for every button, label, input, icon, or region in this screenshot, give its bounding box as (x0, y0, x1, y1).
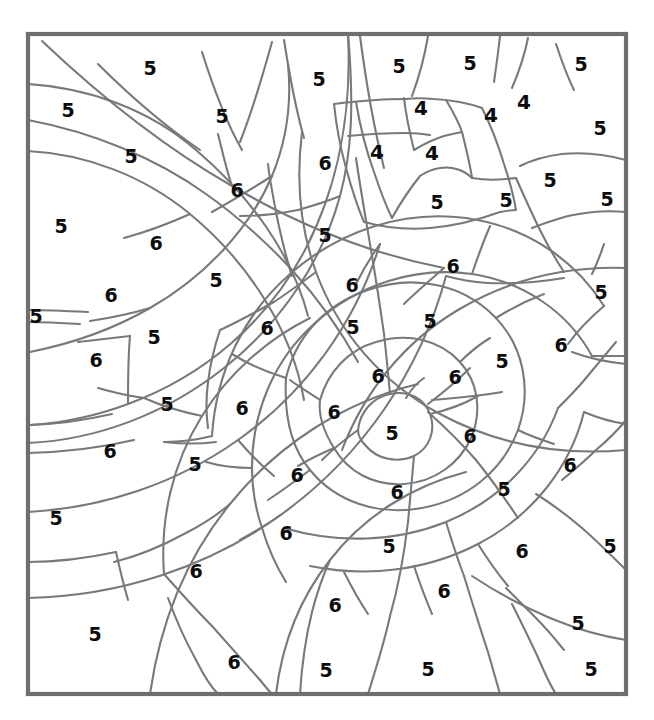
region-number: 5 (593, 119, 606, 138)
region-number: 5 (594, 283, 607, 302)
region-number: 5 (88, 625, 101, 644)
region-number: 5 (571, 614, 584, 633)
region-number: 6 (279, 524, 292, 543)
region-number: 6 (189, 562, 202, 581)
region-number: 6 (103, 442, 116, 461)
region-number: 5 (61, 101, 74, 120)
region-number: 5 (574, 55, 587, 74)
region-number: 6 (104, 286, 117, 305)
region-number: 5 (209, 271, 222, 290)
region-number: 6 (437, 582, 450, 601)
region-number: 5 (188, 455, 201, 474)
region-number: 5 (495, 352, 508, 371)
region-number: 6 (318, 154, 331, 173)
region-number: 6 (260, 319, 273, 338)
region-number: 4 (425, 143, 439, 163)
region-number: 6 (149, 234, 162, 253)
region-number: 5 (584, 660, 597, 679)
region-number: 6 (371, 367, 384, 386)
region-number: 6 (227, 653, 240, 672)
region-number: 6 (327, 403, 340, 422)
region-number: 5 (600, 190, 613, 209)
region-number: 6 (345, 276, 358, 295)
region-number: 5 (319, 661, 332, 680)
region-number: 4 (517, 92, 531, 112)
region-number: 6 (515, 542, 528, 561)
region-number: 5 (499, 191, 512, 210)
region-number: 6 (554, 336, 567, 355)
region-number: 6 (230, 181, 243, 200)
region-number: 5 (143, 59, 156, 78)
region-number: 5 (312, 70, 325, 89)
region-number: 6 (448, 368, 461, 387)
region-number: 5 (160, 395, 173, 414)
region-number: 5 (421, 660, 434, 679)
region-number: 6 (390, 483, 403, 502)
region-number: 5 (392, 57, 405, 76)
region-number: 5 (423, 312, 436, 331)
region-number: 6 (563, 456, 576, 475)
region-number: 5 (385, 424, 398, 443)
region-number: 4 (370, 142, 384, 162)
region-number: 6 (328, 596, 341, 615)
region-number: 5 (430, 193, 443, 212)
region-number: 5 (603, 537, 616, 556)
region-number: 5 (318, 226, 331, 245)
region-number: 6 (446, 257, 459, 276)
region-number: 4 (414, 98, 428, 118)
region-number: 5 (463, 54, 476, 73)
coloring-worksheet: 5 5 5 5 5 5 5 4 4 4 5 5 6 4 4 6 5 5 5 5 … (0, 0, 654, 720)
region-number: 5 (382, 537, 395, 556)
region-number: 6 (89, 351, 102, 370)
region-number: 5 (497, 480, 510, 499)
region-number: 4 (484, 105, 498, 125)
region-number: 6 (235, 399, 248, 418)
region-number: 5 (215, 107, 228, 126)
region-number: 5 (147, 328, 160, 347)
region-number: 5 (543, 171, 556, 190)
region-number: 5 (346, 318, 359, 337)
region-number: 5 (124, 147, 137, 166)
region-number: 6 (290, 466, 303, 485)
region-number: 5 (54, 217, 67, 236)
region-number: 5 (49, 509, 62, 528)
region-number: 5 (29, 307, 42, 326)
region-number: 6 (463, 427, 476, 446)
